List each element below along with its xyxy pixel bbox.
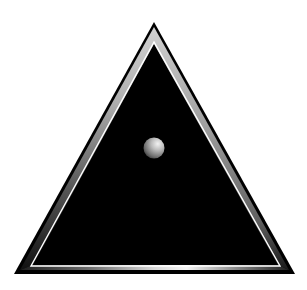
triangle-emblem: Black triangle with metallic beveled fra… (0, 0, 307, 290)
sphere-orb (144, 138, 165, 159)
triangle-graphic (0, 0, 307, 290)
